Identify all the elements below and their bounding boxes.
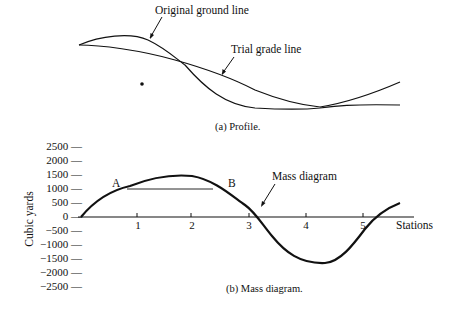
- y-axis-ticks: 2500 — 2000 — 1500 — 1000 — 500 — 0 — −5…: [40, 140, 83, 292]
- ytick-2000: 2000 —: [46, 154, 83, 166]
- ytick-1000: 1000 —: [46, 182, 83, 194]
- ytick-2500: 2500 —: [46, 140, 83, 152]
- profile-caption: (a) Profile.: [215, 121, 260, 133]
- mass-diagram-label: Mass diagram: [272, 170, 337, 183]
- profile-panel: Original ground line Trial grade line (a…: [79, 4, 400, 133]
- ytick-1500: 1500 —: [46, 168, 83, 180]
- point-a-label: A: [112, 177, 121, 189]
- xtick-4: 4: [303, 219, 309, 231]
- mass-diagram-arrow: [262, 184, 275, 205]
- figure: Original ground line Trial grade line (a…: [0, 0, 460, 311]
- ytick-0: 0 —: [63, 210, 83, 222]
- ytick-neg500: −500 —: [46, 224, 83, 236]
- x-axis-ticks: 1 2 3 4 5: [135, 213, 366, 231]
- arrowhead-icon: [150, 33, 154, 39]
- xtick-2: 2: [189, 219, 195, 231]
- xtick-1: 1: [135, 219, 141, 231]
- point-b-label: B: [228, 177, 236, 189]
- xtick-3: 3: [246, 219, 252, 231]
- mass-diagram-caption: (b) Mass diagram.: [226, 283, 303, 295]
- y-axis-label: Cubic yards: [23, 191, 36, 247]
- profile-dot: [140, 82, 144, 86]
- ytick-neg1500: −1500 —: [40, 252, 83, 264]
- ytick-500: 500 —: [52, 196, 83, 208]
- mass-diagram-panel: 2500 — 2000 — 1500 — 1000 — 500 — 0 — −5…: [23, 140, 434, 295]
- trial-grade-line-label: Trial grade line: [231, 43, 301, 56]
- ytick-neg2500: −2500 —: [40, 280, 83, 292]
- arrowhead-icon: [261, 201, 266, 207]
- x-axis-label: Stations: [396, 219, 434, 231]
- ytick-neg2000: −2000 —: [40, 266, 83, 278]
- original-ground-line-label: Original ground line: [155, 4, 249, 17]
- ytick-neg1000: −1000 —: [40, 238, 83, 250]
